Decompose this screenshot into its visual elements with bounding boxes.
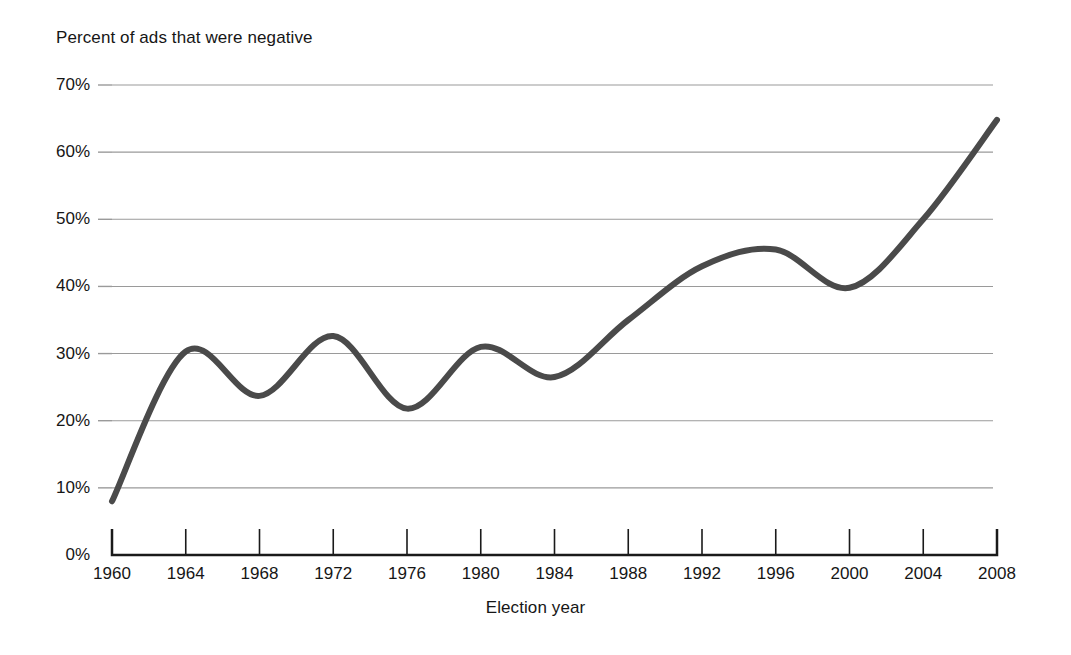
y-tick-label: 10% [30,479,90,496]
y-tick-label: 40% [30,277,90,294]
y-tick-group [98,85,112,488]
x-tick-label: 2008 [957,565,1037,582]
x-tick-label: 1980 [441,565,521,582]
data-series-line [112,120,997,501]
x-tick-label: 1988 [588,565,668,582]
x-tick-group [186,529,924,555]
x-tick-label: 1992 [662,565,742,582]
x-tick-label: 1984 [515,565,595,582]
y-tick-label: 30% [30,345,90,362]
x-tick-label: 1964 [146,565,226,582]
x-tick-label: 1968 [220,565,300,582]
x-tick-label: 2004 [883,565,963,582]
chart-plot-area [0,0,1071,655]
x-tick-label: 1972 [293,565,373,582]
y-tick-label: 0% [30,546,90,563]
y-tick-label: 60% [30,143,90,160]
y-tick-label: 20% [30,412,90,429]
chart-container: Percent of ads that were negative 70%60%… [0,0,1071,655]
y-tick-label: 50% [30,210,90,227]
y-tick-label: 70% [30,76,90,93]
x-tick-label: 1960 [72,565,152,582]
x-tick-label: 1976 [367,565,447,582]
x-tick-label: 2000 [810,565,890,582]
x-axis-title: Election year [0,598,1071,618]
x-tick-label: 1996 [736,565,816,582]
